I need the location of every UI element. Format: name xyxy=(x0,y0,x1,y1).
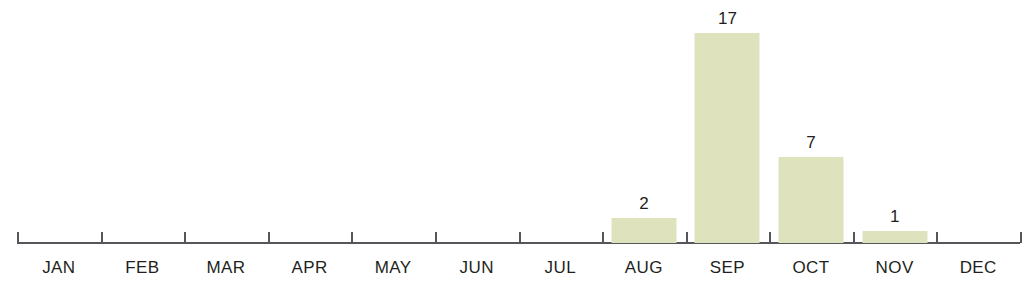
bar-value-label: 1 xyxy=(890,208,899,225)
bar-slot xyxy=(435,0,519,243)
bar-slot xyxy=(268,0,352,243)
x-axis-label-aug: AUG xyxy=(602,258,686,278)
bar-slot xyxy=(351,0,435,243)
bar[interactable] xyxy=(862,231,927,243)
x-axis-label-mar: MAR xyxy=(184,258,268,278)
x-axis-label-feb: FEB xyxy=(101,258,185,278)
axis-tick xyxy=(853,232,855,243)
x-axis-label-may: MAY xyxy=(351,258,435,278)
bar[interactable] xyxy=(779,157,844,243)
bar-chart: 21771 JANFEBMARAPRMAYJUNJULAUGSEPOCTNOVD… xyxy=(0,0,1036,296)
x-axis-label-nov: NOV xyxy=(853,258,937,278)
bar-value-label: 17 xyxy=(718,10,737,27)
bar-slot xyxy=(101,0,185,243)
axis-tick xyxy=(686,232,688,243)
x-axis-label-jun: JUN xyxy=(435,258,519,278)
bars-container: 21771 xyxy=(17,0,1020,243)
axis-tick xyxy=(769,232,771,243)
axis-tick xyxy=(101,232,103,243)
x-axis-label-oct: OCT xyxy=(769,258,853,278)
axis-tick xyxy=(1020,232,1022,243)
axis-tick xyxy=(351,232,353,243)
bar-value-label: 7 xyxy=(806,134,815,151)
bar-slot: 17 xyxy=(686,0,770,243)
axis-tick xyxy=(936,232,938,243)
bar-slot xyxy=(936,0,1020,243)
x-axis-labels: JANFEBMARAPRMAYJUNJULAUGSEPOCTNOVDEC xyxy=(17,258,1020,288)
bar-slot xyxy=(184,0,268,243)
bar-slot: 2 xyxy=(602,0,686,243)
x-axis-label-sep: SEP xyxy=(686,258,770,278)
bar[interactable] xyxy=(695,33,760,243)
axis-tick xyxy=(17,232,19,243)
bar-slot xyxy=(17,0,101,243)
bar-value-label: 2 xyxy=(639,195,648,212)
bar-slot: 1 xyxy=(853,0,937,243)
bar-slot xyxy=(519,0,603,243)
axis-tick xyxy=(184,232,186,243)
bar[interactable] xyxy=(611,218,676,243)
x-axis-label-jan: JAN xyxy=(17,258,101,278)
axis-tick xyxy=(519,232,521,243)
axis-tick xyxy=(602,232,604,243)
x-axis-label-apr: APR xyxy=(268,258,352,278)
x-axis-label-dec: DEC xyxy=(936,258,1020,278)
x-axis-label-jul: JUL xyxy=(519,258,603,278)
axis-tick xyxy=(268,232,270,243)
axis-tick xyxy=(435,232,437,243)
bar-slot: 7 xyxy=(769,0,853,243)
